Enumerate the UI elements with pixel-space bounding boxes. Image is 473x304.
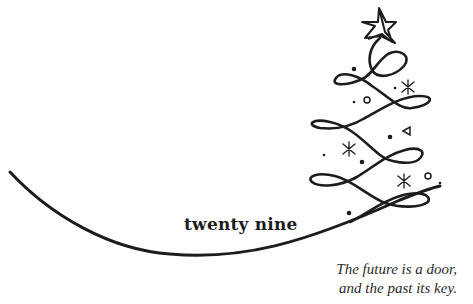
christmas-tree-illustration xyxy=(0,0,473,304)
swirl-christmas-tree-icon xyxy=(310,38,429,222)
circle-ornament-icon xyxy=(425,173,431,179)
quote-line-1: The future is a door, xyxy=(237,260,457,279)
circle-ornament-icon xyxy=(364,97,370,103)
triangle-ornament-icon xyxy=(403,127,410,135)
card-title: twenty nine xyxy=(184,214,298,234)
quote-line-2: and the past its key. xyxy=(237,279,457,298)
card-quote: The future is a door, and the past its k… xyxy=(237,260,457,298)
